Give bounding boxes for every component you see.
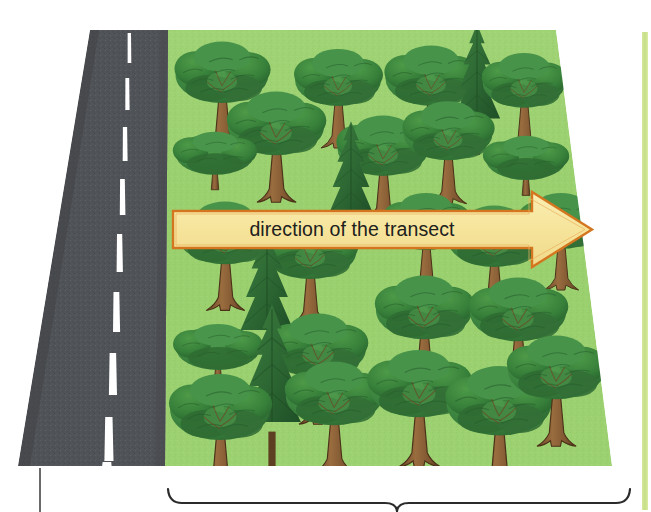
diagram-canvas: direction of the transect: [0, 0, 651, 512]
transect-direction-label: direction of the transect: [172, 211, 532, 248]
page-edge-strip: [642, 32, 648, 510]
transect-scene: [0, 0, 651, 512]
